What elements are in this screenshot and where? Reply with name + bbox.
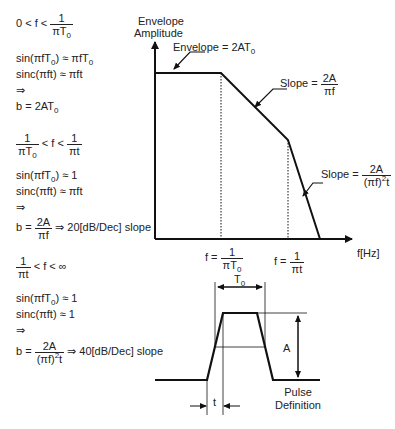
corner1-label: f = 1πT0 bbox=[205, 246, 243, 271]
numerator: 1 bbox=[290, 250, 305, 263]
fraction: 1πT0 bbox=[221, 246, 244, 271]
pulse-rise-label: t bbox=[213, 396, 216, 409]
pulse-waveform bbox=[155, 313, 320, 380]
x-axis-label: f[Hz] bbox=[357, 247, 380, 260]
text: Slope = bbox=[280, 77, 318, 89]
denominator: (πf)2t bbox=[362, 176, 392, 188]
fraction: 2Aπf bbox=[321, 72, 338, 97]
fraction: 2A(πf)2t bbox=[362, 163, 392, 188]
fraction: 1πt bbox=[290, 250, 305, 275]
text: f = bbox=[205, 251, 218, 263]
numerator: 2A bbox=[321, 72, 338, 85]
text: Envelope = 2AT bbox=[173, 41, 251, 53]
caption-line: Pulse bbox=[270, 386, 326, 399]
denominator: πT0 bbox=[221, 259, 244, 271]
caption-line: Definition bbox=[270, 399, 326, 412]
numerator: 2A bbox=[362, 163, 392, 176]
envelope-curve bbox=[155, 73, 320, 239]
text: Slope = bbox=[321, 168, 359, 180]
denominator: πt bbox=[290, 263, 305, 275]
den-text: πT bbox=[223, 259, 237, 271]
slope1-label: Slope = 2Aπf bbox=[280, 72, 338, 97]
envelope-leader-arrow bbox=[174, 52, 205, 69]
den-text: t bbox=[386, 176, 389, 188]
denominator: πf bbox=[321, 85, 338, 97]
slope2-label: Slope = 2A(πf)2t bbox=[321, 163, 391, 188]
sub: 0 bbox=[251, 47, 255, 56]
diagram-graphics bbox=[0, 0, 395, 429]
text: T bbox=[234, 273, 241, 285]
numerator: 1 bbox=[221, 246, 244, 259]
den-text: (πf) bbox=[364, 176, 382, 188]
y-axis-label-line2: Amplitude bbox=[134, 27, 183, 40]
text: f = bbox=[274, 255, 287, 267]
pulse-amplitude-label: A bbox=[283, 342, 290, 355]
pulse-width-label: T0 bbox=[234, 273, 245, 286]
corner2-label: f = 1πt bbox=[274, 250, 304, 275]
pulse-caption: Pulse Definition bbox=[270, 386, 326, 412]
sub: 0 bbox=[241, 279, 245, 288]
envelope-label: Envelope = 2AT0 bbox=[173, 41, 255, 54]
